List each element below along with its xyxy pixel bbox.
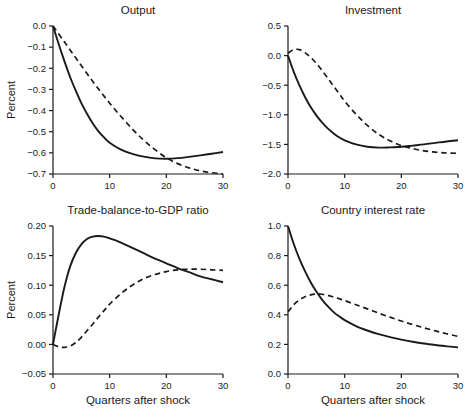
y-tick-label: 0.6 <box>268 280 281 291</box>
x-tick-label: 0 <box>50 380 55 391</box>
x-tick-label: 10 <box>104 180 115 191</box>
chart-title-investment: Investment <box>288 4 458 17</box>
y-tick-label: −0.5 <box>27 126 46 137</box>
x-tick-label: 10 <box>104 380 115 391</box>
y-tick-label: −1.0 <box>262 109 281 120</box>
y-tick-label: 0.05 <box>28 309 47 320</box>
x-tick-label: 20 <box>161 380 172 391</box>
y-tick-label: −0.05 <box>22 368 46 379</box>
x-axis-label-quarters: Quarters after shock <box>288 394 458 406</box>
output-chart-canvas: 0.0−0.1−0.2−0.3−0.4−0.5−0.6−0.70102030 <box>0 0 235 200</box>
x-tick-label: 30 <box>453 380 464 391</box>
x-tick-label: 20 <box>161 180 172 191</box>
y-axis-label-percent: Percent <box>5 281 17 319</box>
solid-series-line <box>288 226 458 347</box>
panel-grid: Output Percent 0.0−0.1−0.2−0.3−0.4−0.5−0… <box>0 0 471 417</box>
y-tick-label: 0.15 <box>28 250 47 261</box>
panel-trade-balance: Trade-balance-to-GDP ratio Percent 0.200… <box>0 200 235 417</box>
y-tick-label: 0.5 <box>268 20 281 31</box>
x-tick-label: 30 <box>453 180 464 191</box>
investment-chart-canvas: 0.50.0−0.5−1.0−1.5−2.00102030 <box>235 0 470 200</box>
y-tick-label: 0.2 <box>268 339 281 350</box>
x-tick-label: 10 <box>339 380 350 391</box>
x-tick-label: 0 <box>50 180 55 191</box>
solid-series-line <box>53 236 223 344</box>
dashed-series-line <box>288 294 458 337</box>
interest-rate-chart-canvas: 1.00.80.60.40.20.00102030 <box>235 200 470 417</box>
y-axis-label-percent: Percent <box>5 81 17 119</box>
panel-output: Output Percent 0.0−0.1−0.2−0.3−0.4−0.5−0… <box>0 0 235 200</box>
impulse-response-figure: Output Percent 0.0−0.1−0.2−0.3−0.4−0.5−0… <box>0 0 471 417</box>
y-tick-label: 0.0 <box>268 368 281 379</box>
x-tick-label: 0 <box>285 380 290 391</box>
y-tick-label: −2.0 <box>262 168 281 179</box>
y-tick-label: −0.6 <box>27 147 46 158</box>
trade-balance-chart-canvas: 0.200.150.100.050.00−0.050102030 <box>0 200 235 417</box>
panel-investment: Investment 0.50.0−0.5−1.0−1.5−2.00102030 <box>235 0 471 200</box>
x-tick-label: 10 <box>339 180 350 191</box>
y-tick-label: 0.0 <box>268 50 281 61</box>
y-tick-label: 0.20 <box>28 220 47 231</box>
chart-title-interest-rate: Country interest rate <box>288 204 458 217</box>
x-tick-label: 30 <box>218 380 229 391</box>
y-tick-label: 0.00 <box>28 339 47 350</box>
y-tick-label: −0.4 <box>27 105 46 116</box>
dashed-series-line <box>288 49 458 153</box>
y-tick-label: 0.8 <box>268 250 281 261</box>
x-tick-label: 20 <box>396 180 407 191</box>
x-axis-label-quarters: Quarters after shock <box>53 394 223 406</box>
x-tick-label: 0 <box>285 180 290 191</box>
y-tick-label: −0.1 <box>27 41 46 52</box>
y-tick-label: 0.10 <box>28 280 47 291</box>
y-tick-label: −0.3 <box>27 84 46 95</box>
chart-title-output: Output <box>53 4 223 17</box>
y-tick-label: −1.5 <box>262 139 281 150</box>
x-tick-label: 30 <box>218 180 229 191</box>
y-tick-label: 0.4 <box>268 309 281 320</box>
y-tick-label: −0.7 <box>27 168 46 179</box>
y-tick-label: 1.0 <box>268 220 281 231</box>
y-tick-label: −0.2 <box>27 63 46 74</box>
solid-series-line <box>53 26 223 159</box>
dashed-series-line <box>53 269 223 347</box>
panel-interest-rate: Country interest rate 1.00.80.60.40.20.0… <box>235 200 471 417</box>
solid-series-line <box>288 56 458 148</box>
x-tick-label: 20 <box>396 380 407 391</box>
y-tick-label: −0.5 <box>262 80 281 91</box>
chart-title-trade-balance: Trade-balance-to-GDP ratio <box>53 204 223 217</box>
dashed-series-line <box>53 26 223 174</box>
y-tick-label: 0.0 <box>33 20 46 31</box>
